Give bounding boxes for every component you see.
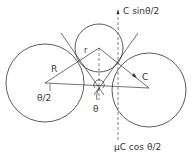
diagram-canvas: C sinθ/2 μC cos θ/2 R r θ/2 θ C [0, 0, 195, 156]
arrow-c-icon [132, 73, 137, 78]
label-force-up: C sinθ/2 [123, 6, 159, 16]
line-left-to-right [45, 83, 149, 88]
label-R: R [51, 64, 57, 74]
label-force-down: μC cos θ/2 [114, 142, 161, 152]
right-circle [112, 53, 186, 127]
label-half-angle: θ/2 [37, 93, 51, 103]
label-C: C [142, 72, 148, 82]
arrow-up-icon [117, 9, 120, 14]
label-theta: θ [93, 104, 99, 114]
label-r: r [84, 46, 88, 55]
angle-pointer [97, 88, 99, 100]
